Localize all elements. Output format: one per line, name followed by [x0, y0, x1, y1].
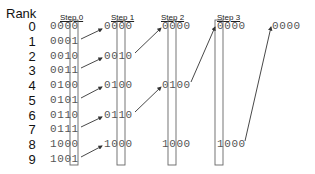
step-1-bit-box — [117, 20, 125, 165]
reduction-diagram: Rank 0 1 2 3 4 5 6 7 8 9 Step 0 Step 1 S… — [0, 0, 315, 174]
arrow-icon — [81, 58, 102, 68]
arrow-icon — [245, 27, 271, 141]
arrow-icon — [135, 28, 161, 53]
step-2-bit-box — [168, 20, 176, 165]
arrow-icon — [81, 117, 102, 127]
diagram-lines — [0, 0, 315, 174]
step-0-bit-box — [70, 20, 78, 165]
arrow-icon — [81, 87, 102, 98]
arrow-icon — [135, 87, 161, 112]
arrow-icon — [81, 29, 102, 39]
step-3-bit-box — [215, 20, 223, 165]
arrow-icon — [81, 146, 102, 157]
arrow-icon — [191, 27, 215, 82]
